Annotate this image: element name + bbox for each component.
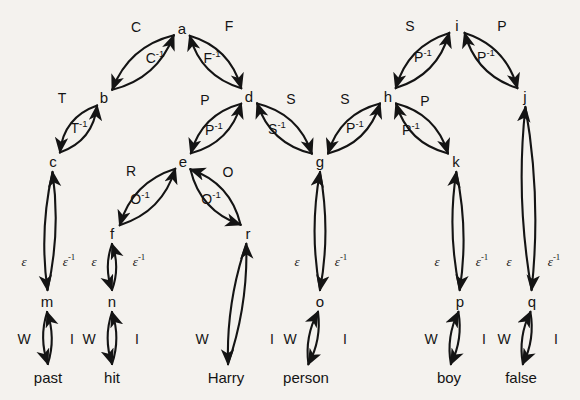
- graph-node-k[interactable]: k: [452, 154, 460, 169]
- graph-node-j[interactable]: j: [523, 89, 526, 104]
- edge-label-base: W: [195, 331, 208, 347]
- graph-node-i[interactable]: i: [455, 18, 458, 33]
- arc-w_past-to-m: [47, 312, 52, 364]
- edge-label-base: ε: [294, 254, 299, 269]
- graph-node-o[interactable]: o: [316, 294, 324, 309]
- edge-label-S_gh: S: [340, 92, 349, 106]
- word-node-boy[interactable]: boy: [437, 370, 461, 385]
- edge-label-base: I: [70, 331, 74, 347]
- edge-label-exponent: -1: [156, 48, 164, 59]
- graph-node-d[interactable]: d: [245, 89, 253, 104]
- word-node-past[interactable]: past: [34, 370, 62, 385]
- edge-label-base: P: [497, 18, 506, 34]
- graph-node-c[interactable]: c: [49, 154, 57, 169]
- edge-label-exponent: -1: [553, 252, 560, 262]
- edge-label-exponent: -1: [68, 252, 75, 262]
- edge-label-base: P: [346, 120, 355, 136]
- edge-label-base: F: [225, 18, 234, 34]
- edge-label-eps_fn: ε: [91, 255, 96, 268]
- edge-label-base: W: [497, 331, 510, 347]
- edge-label-base: W: [424, 331, 437, 347]
- edge-label-Finv: F-1: [203, 51, 220, 65]
- edge-label-base: ε: [91, 254, 96, 269]
- word-node-person[interactable]: person: [283, 370, 329, 385]
- graph-node-f[interactable]: f: [110, 226, 114, 241]
- edge-label-I_harry: I: [270, 332, 274, 346]
- graph-node-b[interactable]: b: [100, 90, 108, 105]
- edge-label-base: C: [146, 50, 156, 66]
- edge-label-exponent: -1: [486, 47, 494, 58]
- edge-label-Oinv_re: O-1: [201, 192, 220, 206]
- edge-label-exponent: -1: [141, 189, 149, 200]
- word-node-false[interactable]: false: [505, 370, 537, 385]
- graph-node-m[interactable]: m: [41, 294, 54, 309]
- edge-label-exponent: -1: [212, 48, 220, 59]
- edge-label-exponent: -1: [481, 252, 488, 262]
- edge-label-base: I: [482, 331, 486, 347]
- edge-label-epsi_qj: ε-1: [548, 255, 560, 268]
- edge-label-base: S: [405, 18, 414, 34]
- edge-label-base: P: [402, 122, 411, 138]
- edge-label-exponent: -1: [214, 120, 222, 131]
- graph-node-a[interactable]: a: [178, 21, 186, 36]
- graph-node-g[interactable]: g: [316, 154, 324, 169]
- edge-label-exponent: -1: [411, 120, 419, 131]
- word-node-harry[interactable]: Harry: [208, 370, 245, 385]
- edge-label-W_past: W: [17, 332, 30, 346]
- arc-w_hit-to-n: [112, 312, 116, 364]
- edge-label-epsi_pk: ε-1: [476, 255, 488, 268]
- edge-label-eps_cm: ε: [21, 255, 26, 268]
- edge-label-Pinv_kh: P-1: [402, 123, 420, 137]
- edge-label-exponent: -1: [277, 119, 285, 130]
- edge-label-Oinv_fe: O-1: [130, 192, 149, 206]
- edge-label-S_ih: S: [405, 19, 414, 33]
- graph-node-r[interactable]: r: [246, 226, 251, 241]
- edge-label-I_past: I: [70, 332, 74, 346]
- graph-node-p[interactable]: p: [456, 294, 464, 309]
- edge-label-Cinv: C-1: [146, 51, 165, 65]
- edge-label-epsi_og: ε-1: [335, 255, 347, 268]
- edge-label-base: O: [201, 191, 212, 207]
- edge-label-base: I: [554, 331, 558, 347]
- arc-n-to-f: [112, 244, 116, 290]
- edge-label-P_de: P: [200, 93, 209, 107]
- edge-label-P_ij: P: [497, 19, 506, 33]
- graph-node-e[interactable]: e: [179, 154, 187, 169]
- edge-label-exponent: -1: [138, 252, 145, 262]
- edge-label-I_person: I: [343, 332, 347, 346]
- edge-label-W_harry: W: [195, 332, 208, 346]
- edge-label-exponent: -1: [340, 252, 347, 262]
- edge-label-base: W: [82, 331, 95, 347]
- arc-a-to-b: [112, 35, 174, 89]
- edge-label-base: W: [17, 331, 30, 347]
- edge-label-base: W: [283, 331, 296, 347]
- edge-label-base: P: [414, 49, 423, 65]
- graph-node-n[interactable]: n: [108, 294, 116, 309]
- edge-label-epsi_mc: ε-1: [63, 255, 75, 268]
- word-node-hit[interactable]: hit: [104, 370, 120, 385]
- edge-label-W_boy: W: [424, 332, 437, 346]
- edge-label-epsi_nf: ε-1: [133, 255, 145, 268]
- edge-label-I_false: I: [554, 332, 558, 346]
- graph-node-h[interactable]: h: [384, 89, 392, 104]
- edge-label-S_dg: S: [286, 92, 295, 106]
- arc-f-to-n: [108, 244, 112, 290]
- edge-label-base: O: [130, 191, 141, 207]
- edge-label-exponent: -1: [355, 118, 363, 129]
- edge-label-I_hit: I: [135, 332, 139, 346]
- edge-label-base: I: [270, 331, 274, 347]
- edge-label-exponent: -1: [212, 189, 220, 200]
- arc-n-to-w_hit: [108, 312, 112, 364]
- edge-label-base: C: [131, 19, 141, 35]
- edge-label-W_hit: W: [82, 332, 95, 346]
- edge-label-Pinv_hg: P-1: [346, 121, 364, 135]
- edge-label-exponent: -1: [423, 47, 431, 58]
- edge-label-W_false: W: [497, 332, 510, 346]
- edge-label-Sinv_gd: S-1: [268, 122, 286, 136]
- graph-node-q[interactable]: q: [528, 294, 536, 309]
- edge-label-eps_kp: ε: [434, 255, 439, 268]
- edge-label-base: ε: [506, 254, 511, 269]
- edge-label-base: I: [135, 331, 139, 347]
- arc-o-to-g: [315, 172, 320, 290]
- edge-label-base: ε: [434, 254, 439, 269]
